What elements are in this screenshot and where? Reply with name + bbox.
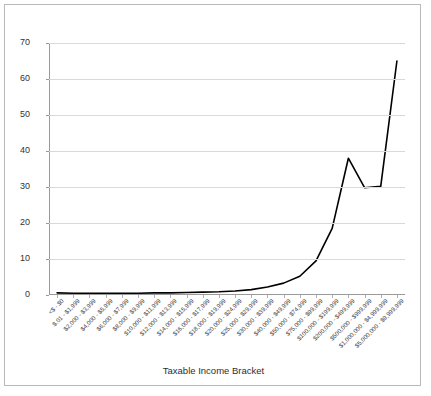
- gridline: [49, 187, 405, 188]
- y-tick-mark: [46, 259, 49, 260]
- gridline: [49, 223, 405, 224]
- y-tick-mark: [46, 151, 49, 152]
- chart-frame: 010203040506070 <$ - $0$.01 - $1,999$2,0…: [4, 4, 421, 386]
- y-tick-label: 40: [0, 145, 30, 155]
- y-tick-label: 20: [0, 217, 30, 227]
- gridline: [49, 151, 405, 152]
- gridline: [49, 259, 405, 260]
- gridline: [49, 115, 405, 116]
- y-tick-mark: [46, 223, 49, 224]
- line-series: [49, 43, 405, 295]
- y-tick-label: 50: [0, 109, 30, 119]
- y-tick-mark: [46, 295, 49, 296]
- y-tick-label: 60: [0, 73, 30, 83]
- y-tick-label: 30: [0, 181, 30, 191]
- y-tick-mark: [46, 79, 49, 80]
- y-tick-label: 70: [0, 37, 30, 47]
- y-tick-label: 10: [0, 253, 30, 263]
- x-axis-tick-labels: <$ - $0$.01 - $1,999$2,000 - $3,999$4,00…: [49, 297, 405, 359]
- y-tick-mark: [46, 187, 49, 188]
- x-axis-title: Taxable Income Bracket: [5, 365, 422, 376]
- gridline: [49, 43, 405, 44]
- y-tick-mark: [46, 43, 49, 44]
- y-tick-label: 0: [0, 289, 30, 299]
- y-tick-mark: [46, 115, 49, 116]
- gridline: [49, 79, 405, 80]
- plot-area: [49, 43, 405, 295]
